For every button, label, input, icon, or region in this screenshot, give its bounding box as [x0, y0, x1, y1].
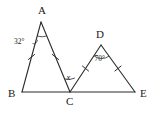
vertex-label-D: D	[96, 28, 104, 40]
geometry-figure: A B C D E 32° 70° x	[0, 0, 155, 115]
angle-label-70-degrees: 70°	[95, 54, 106, 63]
vertex-label-B: B	[8, 87, 15, 99]
vertex-label-C: C	[66, 95, 73, 107]
angle-arc-A	[37, 36, 47, 37]
vertex-label-E: E	[140, 87, 147, 99]
segment-group	[22, 22, 135, 92]
tick-mark-AC	[52, 55, 58, 60]
vertex-label-A: A	[38, 4, 46, 16]
angle-label-32-degrees: 32°	[14, 37, 25, 46]
tick-mark-CD	[82, 66, 88, 71]
angle-label-x-unknown: x	[66, 72, 71, 82]
tick-mark-DE	[115, 66, 121, 71]
geometry-svg: A B C D E 32° 70° x	[0, 0, 155, 115]
